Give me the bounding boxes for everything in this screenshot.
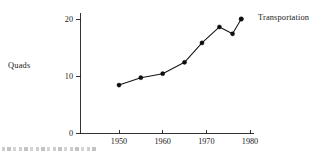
data-point-marker xyxy=(117,83,121,87)
y-tick-label: 20 xyxy=(65,15,73,24)
x-tick-label: 1970 xyxy=(198,137,214,146)
y-tick-label: 10 xyxy=(65,72,73,81)
x-tick-label: 1960 xyxy=(154,137,170,146)
data-point-marker xyxy=(217,25,221,29)
data-point-marker xyxy=(230,32,234,36)
y-axis-title: Quads xyxy=(8,61,30,70)
tick-label-layer: 010201950196019701980 xyxy=(65,15,258,146)
y-tick-label: 0 xyxy=(69,129,73,138)
series-annotation-label: Transportation xyxy=(258,13,309,22)
data-point-marker xyxy=(161,72,165,76)
data-point-marker xyxy=(200,41,204,45)
x-tick-label: 1980 xyxy=(242,137,258,146)
chart-figure: 010201950196019701980 Quads Transportati… xyxy=(0,0,318,155)
series-markers-transportation xyxy=(117,17,243,87)
line-chart-plot: 010201950196019701980 xyxy=(0,0,318,155)
data-point-marker xyxy=(182,60,186,64)
annotation-anchor-marker xyxy=(239,17,243,21)
data-point-marker xyxy=(139,76,143,80)
scan-edge-artifact xyxy=(2,147,98,151)
series-line-transportation xyxy=(119,19,241,85)
x-tick-label: 1950 xyxy=(111,137,127,146)
chart-series-group xyxy=(117,17,243,87)
